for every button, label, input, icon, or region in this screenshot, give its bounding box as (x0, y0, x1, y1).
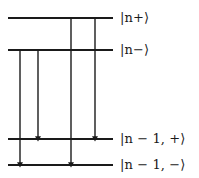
level-label-n-minus: |n−⟩ (120, 43, 149, 56)
level-label-n-1-plus: |n − 1, +⟩ (120, 132, 185, 145)
energy-level-diagram: |n+⟩ |n−⟩ |n − 1, +⟩ |n − 1, −⟩ (0, 0, 199, 178)
transition-arrows-group (20, 18, 95, 164)
level-label-n-plus: |n+⟩ (120, 11, 149, 24)
energy-levels-group (8, 18, 113, 165)
diagram-canvas (0, 0, 199, 178)
level-label-n-1-minus: |n − 1, −⟩ (120, 158, 185, 171)
